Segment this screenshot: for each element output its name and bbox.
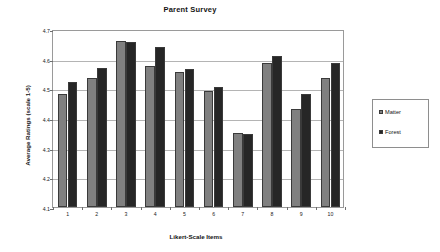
x-tick-label: 9: [300, 211, 303, 217]
x-tick-label: 1: [66, 211, 69, 217]
x-tick-label: 10: [328, 211, 334, 217]
bar-chart: Parent Survey Average Ratings (scale 1-5…: [0, 0, 440, 252]
x-tick-label: 8: [271, 211, 274, 217]
x-tick-mark: [53, 207, 54, 210]
bar: [175, 72, 185, 207]
y-axis-title: Average Ratings (scale 1-5): [24, 56, 31, 196]
x-tick-label: 2: [95, 211, 98, 217]
x-tick-label: 6: [212, 211, 215, 217]
bar: [116, 41, 126, 207]
bar-group: [141, 31, 170, 207]
x-tick-mark: [228, 207, 229, 210]
bar: [243, 134, 253, 207]
bar-group: [111, 31, 140, 207]
x-tick-mark: [316, 207, 317, 210]
x-axis-title: Likert-Scale Items: [48, 233, 344, 240]
bar: [272, 56, 282, 207]
bar: [145, 66, 155, 207]
x-tick-label: 7: [241, 211, 244, 217]
bar: [126, 42, 136, 207]
y-tick-label: 4.3: [43, 147, 50, 153]
y-tick-label: 4.6: [43, 58, 50, 64]
y-tick-label: 4.1: [43, 206, 50, 212]
y-tick-label: 4.4: [43, 117, 50, 123]
bar-group: [53, 31, 82, 207]
bar: [214, 87, 224, 207]
y-tick-label: 4.7: [43, 28, 50, 34]
chart-legend: Matter Forest: [372, 99, 429, 148]
bar: [155, 47, 165, 207]
x-tick-mark: [287, 207, 288, 210]
x-tick-mark: [257, 207, 258, 210]
plot-area: 4.74.64.54.44.34.24.1 12345678910: [52, 30, 344, 208]
x-tick-mark: [345, 207, 346, 210]
legend-swatch-icon: [379, 110, 383, 114]
x-tick-mark: [199, 207, 200, 210]
bar-group: [170, 31, 199, 207]
y-tick-label: 4.5: [43, 87, 50, 93]
bar: [321, 78, 331, 207]
legend-label: Matter: [385, 109, 401, 115]
bar-group: [82, 31, 111, 207]
bar: [331, 63, 341, 207]
bar: [97, 68, 107, 207]
x-tick-label: 5: [183, 211, 186, 217]
bar-group: [199, 31, 228, 207]
bar: [68, 82, 78, 207]
legend-item-matter: Matter: [379, 109, 401, 115]
bar: [233, 133, 243, 207]
bar: [262, 63, 272, 207]
bar: [87, 78, 97, 207]
bar-group: [257, 31, 286, 207]
y-tick-label: 4.2: [43, 176, 50, 182]
bar-group: [228, 31, 257, 207]
x-tick-label: 3: [125, 211, 128, 217]
x-tick-mark: [141, 207, 142, 210]
x-tick-mark: [82, 207, 83, 210]
bars-layer: [53, 31, 343, 207]
bar: [204, 91, 214, 207]
bar-group: [316, 31, 345, 207]
chart-title: Parent Survey: [0, 5, 380, 14]
bar: [58, 94, 68, 207]
x-tick-mark: [111, 207, 112, 210]
bar: [291, 109, 301, 207]
bar: [301, 94, 311, 207]
legend-label: Forest: [385, 129, 401, 135]
x-tick-label: 4: [154, 211, 157, 217]
legend-item-forest: Forest: [379, 129, 401, 135]
x-tick-mark: [170, 207, 171, 210]
legend-swatch-icon: [379, 130, 383, 134]
bar: [185, 69, 195, 207]
bar-group: [287, 31, 316, 207]
